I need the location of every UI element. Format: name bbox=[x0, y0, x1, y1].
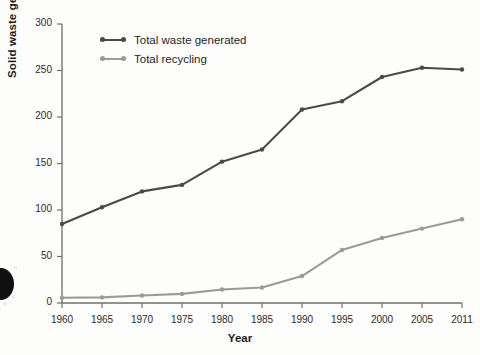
x-axis-title: Year bbox=[0, 332, 480, 344]
data-point-marker bbox=[260, 285, 264, 289]
y-axis-title: Solid waste generated (million tons) bbox=[6, 0, 18, 78]
x-tick-label: 2000 bbox=[362, 314, 402, 325]
data-point-marker bbox=[100, 295, 104, 299]
data-point-marker bbox=[340, 99, 344, 103]
legend-label-waste: Total waste generated bbox=[134, 34, 247, 46]
y-tick-label: 250 bbox=[22, 64, 52, 75]
data-point-marker bbox=[260, 147, 264, 151]
y-tick-label: 150 bbox=[22, 157, 52, 168]
data-point-marker bbox=[60, 222, 64, 226]
data-point-marker bbox=[180, 292, 184, 296]
x-tick-label: 1985 bbox=[242, 314, 282, 325]
legend-label-recycling: Total recycling bbox=[134, 53, 207, 65]
data-point-marker bbox=[100, 205, 104, 209]
y-tick-label: 200 bbox=[22, 110, 52, 121]
data-point-marker bbox=[60, 296, 64, 300]
data-point-marker bbox=[380, 75, 384, 79]
x-tick-label: 1990 bbox=[282, 314, 322, 325]
x-tick-label: 2005 bbox=[402, 314, 442, 325]
y-tick-label: 300 bbox=[22, 17, 52, 28]
data-point-marker bbox=[180, 183, 184, 187]
y-tick-label: 100 bbox=[22, 203, 52, 214]
x-tick-label: 1965 bbox=[82, 314, 122, 325]
data-point-marker bbox=[220, 287, 224, 291]
y-tick-label: 50 bbox=[22, 250, 52, 261]
x-tick-label: 1970 bbox=[122, 314, 162, 325]
data-point-marker bbox=[300, 274, 304, 278]
legend-item-recycling: Total recycling bbox=[100, 49, 247, 68]
x-tick-label: 1980 bbox=[202, 314, 242, 325]
data-point-marker bbox=[420, 226, 424, 230]
data-point-marker bbox=[140, 293, 144, 297]
y-axis-ticks bbox=[57, 24, 62, 303]
data-point-marker bbox=[460, 217, 464, 221]
data-point-marker bbox=[140, 189, 144, 193]
data-point-marker bbox=[460, 67, 464, 71]
x-tick-label: 1995 bbox=[322, 314, 362, 325]
data-point-marker bbox=[220, 159, 224, 163]
chart-figure: 050100150200250300 196019651970197519801… bbox=[0, 0, 480, 355]
legend-marker-waste-icon bbox=[100, 35, 126, 45]
data-point-marker bbox=[420, 66, 424, 70]
x-tick-label: 1960 bbox=[42, 314, 82, 325]
legend-marker-recycling-icon bbox=[100, 54, 126, 64]
data-series-layer bbox=[60, 66, 464, 300]
y-tick-label: 0 bbox=[22, 296, 52, 307]
x-tick-label: 1975 bbox=[162, 314, 202, 325]
x-axis-ticks bbox=[62, 303, 462, 308]
data-point-marker bbox=[380, 236, 384, 240]
series-line-waste bbox=[62, 68, 462, 224]
legend-item-waste: Total waste generated bbox=[100, 30, 247, 49]
x-tick-label: 2011 bbox=[442, 314, 480, 325]
chart-legend: Total waste generated Total recycling bbox=[100, 30, 247, 68]
data-point-marker bbox=[300, 107, 304, 111]
data-point-marker bbox=[340, 248, 344, 252]
